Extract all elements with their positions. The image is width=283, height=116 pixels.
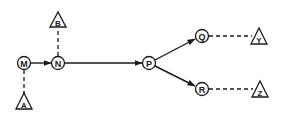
triangle-label-a: A (21, 101, 27, 110)
circle-node-n: N (52, 57, 65, 70)
triangle-node-z: Z (252, 81, 268, 98)
circle-node-r: R (196, 83, 209, 96)
node-label-p: P (146, 59, 152, 69)
circle-node-m: M (18, 57, 31, 70)
node-label-r: R (199, 85, 206, 95)
triangle-node-a: A (16, 93, 32, 110)
arrow-p-to-r (155, 66, 195, 86)
circle-node-q: Q (196, 30, 209, 43)
circle-node-p: P (143, 57, 156, 70)
triangle-node-b: B (50, 12, 66, 28)
triangle-node-y: Y (251, 28, 267, 45)
triangle-label-z: Z (258, 89, 263, 98)
triangle-label-y: Y (256, 36, 262, 45)
flow-diagram: M N P Q R A B Y Z (0, 0, 283, 116)
triangle-label-b: B (55, 19, 61, 28)
node-label-n: N (55, 59, 62, 69)
node-label-m: M (20, 59, 28, 69)
arrow-p-to-q (155, 39, 195, 60)
node-label-q: Q (198, 32, 205, 42)
